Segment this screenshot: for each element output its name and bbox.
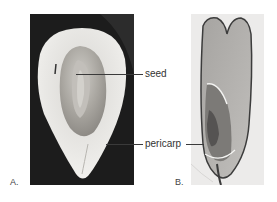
pericarp-leader-line-right — [186, 144, 204, 145]
seed-label: seed — [145, 69, 167, 79]
panel-b-photo — [191, 14, 264, 185]
pericarp-leader-line-left — [106, 144, 143, 145]
panel-a-photo — [30, 14, 134, 185]
seed-leader-line — [76, 74, 143, 75]
fruit-section-illustration — [30, 14, 134, 185]
panel-a-letter: A. — [10, 177, 19, 187]
panel-b-letter: B. — [175, 177, 184, 187]
grain-section-illustration — [191, 14, 264, 185]
pericarp-label: pericarp — [145, 139, 181, 149]
